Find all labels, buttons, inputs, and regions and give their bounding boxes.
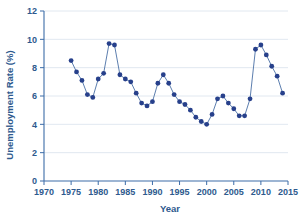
y-axis-ticks-group: 024681012 — [27, 6, 44, 186]
x-tick-label-1980: 1980 — [88, 187, 108, 197]
x-tick-label-2015: 2015 — [278, 187, 298, 197]
y-tick-label-12: 12 — [27, 6, 37, 16]
data-point-1984 — [118, 72, 123, 77]
data-point-2009 — [253, 47, 258, 52]
data-point-1980 — [96, 77, 101, 82]
data-point-1989 — [145, 104, 150, 109]
data-point-2011 — [264, 53, 269, 58]
y-axis-label: Unemployment Rate (%) — [4, 50, 15, 159]
data-point-1995 — [177, 99, 182, 104]
data-point-1992 — [161, 72, 166, 77]
data-point-1986 — [128, 79, 133, 84]
data-point-1985 — [123, 77, 128, 82]
data-point-2004 — [226, 101, 231, 106]
data-point-1975 — [69, 58, 74, 63]
data-point-1991 — [155, 81, 160, 86]
data-point-2003 — [221, 94, 226, 99]
data-point-1996 — [183, 102, 188, 107]
data-point-1976 — [74, 70, 79, 75]
data-point-1990 — [150, 99, 155, 104]
chart-canvas: 024681012 197019751980198519901995200020… — [0, 0, 306, 218]
y-tick-label-2: 2 — [32, 148, 37, 158]
data-point-2005 — [231, 106, 236, 111]
unemployment-rate-chart: 024681012 197019751980198519901995200020… — [0, 0, 306, 218]
data-point-1997 — [188, 108, 193, 113]
series-markers-group — [69, 41, 285, 127]
x-tick-label-2010: 2010 — [251, 187, 271, 197]
data-point-1999 — [199, 119, 204, 124]
series-line-group — [71, 44, 282, 125]
data-point-2008 — [248, 96, 253, 101]
x-tick-label-1985: 1985 — [115, 187, 135, 197]
x-tick-label-1995: 1995 — [170, 187, 190, 197]
x-tick-label-2005: 2005 — [224, 187, 244, 197]
data-point-1982 — [107, 41, 112, 46]
x-tick-label-1990: 1990 — [142, 187, 162, 197]
x-axis-ticks-group: 1970197519801985199019952000200520102015 — [34, 181, 298, 197]
data-point-1983 — [112, 43, 117, 48]
data-point-2013 — [275, 74, 280, 79]
data-point-2007 — [242, 113, 247, 118]
data-point-1998 — [193, 115, 198, 120]
data-point-2002 — [215, 96, 220, 101]
data-point-1988 — [139, 101, 144, 106]
x-axis-label: Year — [160, 203, 180, 214]
data-point-1994 — [172, 92, 177, 97]
y-tick-label-0: 0 — [32, 176, 37, 186]
data-point-2012 — [269, 64, 274, 69]
series-line-unemployment-rate — [71, 44, 282, 125]
data-point-2006 — [237, 113, 242, 118]
data-point-2001 — [210, 112, 215, 117]
x-tick-label-1975: 1975 — [61, 187, 81, 197]
y-tick-label-8: 8 — [32, 63, 37, 73]
x-tick-label-1970: 1970 — [34, 187, 54, 197]
data-point-1993 — [166, 81, 171, 86]
x-tick-label-2000: 2000 — [197, 187, 217, 197]
data-point-2014 — [280, 91, 285, 96]
data-point-1978 — [85, 92, 90, 97]
y-tick-label-10: 10 — [27, 35, 37, 45]
data-point-1981 — [101, 71, 106, 76]
data-point-2010 — [258, 43, 263, 48]
y-tick-label-6: 6 — [32, 91, 37, 101]
data-point-1977 — [80, 78, 85, 83]
data-point-1979 — [90, 95, 95, 100]
data-point-1987 — [134, 91, 139, 96]
data-point-2000 — [204, 122, 209, 127]
y-tick-label-4: 4 — [32, 120, 37, 130]
